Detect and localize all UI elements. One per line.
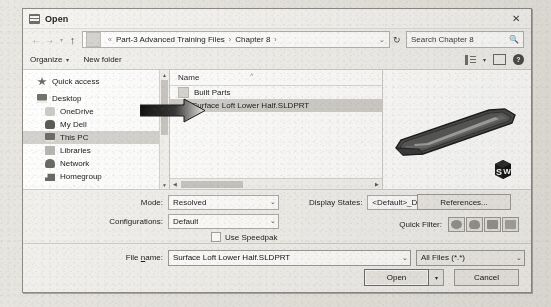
sidebar-item-libraries[interactable]: Libraries bbox=[23, 144, 169, 157]
svg-text:S: S bbox=[496, 167, 502, 177]
file-name-label: File name: bbox=[23, 253, 168, 262]
use-speedpak-label: Use Speedpak bbox=[225, 233, 277, 242]
open-label: Open bbox=[387, 273, 407, 282]
sidebar-item-label: Quick access bbox=[52, 77, 100, 86]
sidebar-item-label: Network bbox=[60, 159, 89, 168]
sidebar-item-label: Homegroup bbox=[60, 172, 102, 181]
breadcrumb-item-1[interactable]: Chapter 8 bbox=[235, 35, 270, 44]
view-layout-icon[interactable] bbox=[465, 55, 476, 65]
search-icon: 🔍 bbox=[509, 35, 519, 44]
filter-topdown-icon[interactable] bbox=[502, 217, 519, 232]
bottom-bar: File name: Surface Loft Lower Half.SLDPR… bbox=[23, 243, 531, 292]
surface-loft-lower-half-3d-preview bbox=[393, 104, 519, 160]
organize-label: Organize bbox=[30, 55, 62, 64]
scroll-up-icon[interactable]: ▲ bbox=[160, 70, 169, 79]
scroll-down-icon[interactable]: ▼ bbox=[160, 180, 169, 189]
scroll-left-icon[interactable]: ◀ bbox=[170, 181, 180, 187]
preview-pane-icon[interactable] bbox=[493, 54, 506, 65]
use-speedpak-row[interactable]: Use Speedpak bbox=[211, 232, 531, 242]
history-chevron-down-icon[interactable]: ▾ bbox=[56, 32, 66, 47]
sidebar-item-label: This PC bbox=[60, 133, 88, 142]
toolbar-right-group: ▾ ? bbox=[465, 54, 524, 65]
file-list-pane: Name ˄ Built Parts Surface Loft Lower Ha… bbox=[170, 70, 382, 189]
file-name-label-post: ame: bbox=[145, 253, 163, 262]
sidebar-item-label: OneDrive bbox=[60, 107, 94, 116]
column-header-label: Name bbox=[178, 73, 199, 82]
display-states-label: Display States: bbox=[309, 198, 362, 207]
chevron-down-icon: ⌄ bbox=[270, 196, 276, 209]
sidebar-item-this-pc[interactable]: This PC bbox=[23, 131, 169, 144]
new-folder-button[interactable]: New folder bbox=[83, 55, 121, 64]
file-type-select[interactable]: All Files (*.*) ⌄ bbox=[416, 250, 525, 266]
sidebar-item-quick-access[interactable]: Quick access bbox=[23, 75, 169, 88]
scroll-right-icon[interactable]: ▶ bbox=[372, 181, 382, 187]
cancel-label: Cancel bbox=[474, 273, 499, 282]
up-arrow-icon[interactable]: ↑ bbox=[66, 32, 79, 47]
computer-icon bbox=[45, 133, 55, 142]
file-name-input[interactable]: Surface Loft Lower Half.SLDPRT ⌄ bbox=[168, 250, 411, 266]
view-chevron-down-icon[interactable]: ▾ bbox=[483, 56, 486, 63]
open-split-button[interactable]: ▾ bbox=[429, 269, 444, 286]
help-icon[interactable]: ? bbox=[513, 54, 524, 65]
scrollbar-thumb[interactable] bbox=[181, 181, 243, 188]
configurations-select[interactable]: Default ⌄ bbox=[168, 214, 279, 229]
desktop-icon bbox=[37, 94, 47, 103]
svg-text:W: W bbox=[503, 167, 511, 176]
sidebar-item-label: Libraries bbox=[60, 146, 91, 155]
address-prefix: « bbox=[108, 36, 112, 43]
chevron-down-icon[interactable]: ⌄ bbox=[402, 251, 408, 265]
forward-arrow-icon[interactable]: → bbox=[43, 32, 56, 47]
new-folder-label: New folder bbox=[83, 55, 121, 64]
navigation-pane-scrollbar[interactable]: ▲ ▼ bbox=[159, 70, 169, 189]
preview-pane: S W bbox=[382, 70, 531, 189]
search-placeholder: Search Chapter 8 bbox=[411, 35, 474, 44]
cancel-button[interactable]: Cancel bbox=[454, 269, 519, 286]
mode-label: Mode: bbox=[23, 198, 168, 207]
folder-icon bbox=[178, 87, 189, 98]
user-icon bbox=[45, 120, 55, 129]
dialog-buttons: Open ▾ Cancel bbox=[364, 269, 519, 286]
library-icon bbox=[45, 146, 55, 155]
file-type-value: All Files (*.*) bbox=[421, 253, 465, 262]
use-speedpak-checkbox[interactable] bbox=[211, 232, 221, 242]
search-input[interactable]: Search Chapter 8 🔍 bbox=[406, 31, 524, 48]
folder-window-icon bbox=[29, 14, 40, 24]
folder-path-icon bbox=[86, 32, 101, 47]
network-icon bbox=[45, 159, 55, 168]
close-icon[interactable]: ✕ bbox=[501, 9, 531, 28]
open-button[interactable]: Open bbox=[364, 269, 429, 286]
sidebar-item-network[interactable]: Network bbox=[23, 157, 169, 170]
filter-drawings-icon[interactable] bbox=[484, 217, 501, 232]
breadcrumb-separator-0: › bbox=[229, 36, 231, 43]
chevron-down-icon: ⌄ bbox=[270, 215, 276, 228]
window-title: Open bbox=[45, 14, 68, 24]
refresh-icon[interactable]: ↻ bbox=[390, 32, 404, 47]
address-chevron-down-icon[interactable]: ⌄ bbox=[375, 36, 389, 44]
sidebar-item-homegroup[interactable]: Homegroup bbox=[23, 170, 169, 183]
mode-select[interactable]: Resolved ⌄ bbox=[168, 195, 279, 210]
filter-assemblies-icon[interactable] bbox=[466, 217, 483, 232]
configurations-value: Default bbox=[173, 217, 198, 226]
address-row: ← → ▾ ↑ « Part-3 Advanced Training Files… bbox=[23, 29, 531, 50]
configurations-label: Configurations: bbox=[23, 217, 168, 226]
references-button[interactable]: References... bbox=[417, 194, 511, 210]
file-name-label-pre: File bbox=[126, 253, 141, 262]
file-name-value: Surface Loft Lower Half.SLDPRT bbox=[173, 253, 290, 262]
chevron-down-icon: ▾ bbox=[66, 56, 69, 63]
cloud-icon bbox=[45, 107, 55, 116]
star-icon bbox=[37, 77, 47, 86]
breadcrumb-item-0[interactable]: Part-3 Advanced Training Files bbox=[116, 35, 225, 44]
back-arrow-icon[interactable]: ← bbox=[30, 32, 43, 47]
sidebar-item-label: My Dell bbox=[60, 120, 87, 129]
address-bar[interactable]: « Part-3 Advanced Training Files › Chapt… bbox=[82, 31, 390, 48]
file-name-cell: Built Parts bbox=[194, 88, 230, 97]
homegroup-icon bbox=[45, 172, 55, 181]
organize-button[interactable]: Organize ▾ bbox=[30, 55, 69, 64]
navigation-pane: Quick access Desktop OneDrive My Dell Th… bbox=[23, 70, 170, 189]
column-header-name[interactable]: Name ˄ bbox=[170, 70, 382, 86]
file-list-horizontal-scrollbar[interactable]: ▾ ◀ ▶ bbox=[170, 178, 382, 189]
dialog-body: Quick access Desktop OneDrive My Dell Th… bbox=[23, 70, 531, 190]
filter-parts-icon[interactable] bbox=[448, 217, 465, 232]
sort-indicator-icon: ˄ bbox=[250, 72, 254, 78]
navigation-list: Quick access Desktop OneDrive My Dell Th… bbox=[23, 70, 169, 183]
